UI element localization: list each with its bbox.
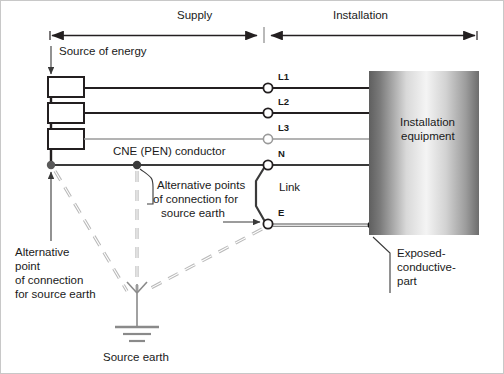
conductor-E <box>273 224 371 226</box>
link-conductor[interactable] <box>256 168 264 220</box>
callout-exposed-conductive-part <box>373 237 390 293</box>
terminal-L1[interactable] <box>263 83 272 92</box>
installation-equipment-box <box>369 71 479 235</box>
conductor-label-L3: L3 <box>278 122 289 133</box>
cne-conductor-label: CNE (PEN) conductor <box>113 145 225 159</box>
alternative-point-label-line3: of connection <box>15 274 83 288</box>
installation-equipment-label-line2: equipment <box>401 130 455 144</box>
source-windings <box>48 77 84 165</box>
terminal-N[interactable] <box>263 160 272 169</box>
exposed-conductive-part-label-line2: conductive- <box>397 261 456 275</box>
exposed-conductive-part-label-line1: Exposed- <box>397 247 446 261</box>
conductor-label-L2: L2 <box>278 96 289 107</box>
alternative-point-label-line4: for source earth <box>15 288 96 302</box>
terminal-L2[interactable] <box>263 108 272 117</box>
alternative-point-label-line2: point <box>15 260 40 274</box>
conductor-label-L1: L1 <box>278 71 289 82</box>
source-earth-label: Source earth <box>103 351 169 365</box>
alternative-point-label-line1: Alternative <box>15 246 69 260</box>
installation-equipment-label-line1: Installation <box>400 116 455 130</box>
callout-alternative-points <box>140 169 153 204</box>
exposed-conductive-part-label-line3: part <box>397 275 417 289</box>
earth-ground-icon <box>115 282 159 341</box>
zone-scale-arrows <box>50 27 477 43</box>
cne-connection-node <box>133 161 141 169</box>
terminal-L3[interactable] <box>263 134 272 143</box>
source-star-point-node <box>47 161 55 169</box>
zone-label-installation: Installation <box>333 9 388 23</box>
conductor-label-E: E <box>278 207 284 218</box>
conductor-label-N: N <box>278 148 285 159</box>
alternative-points-label-line3: source earth <box>161 207 225 221</box>
link-label: Link <box>279 181 300 195</box>
earthing-arrangement-diagram: Supply Installation Source of energy L1 … <box>0 0 504 374</box>
zone-label-supply: Supply <box>177 9 212 23</box>
alternative-points-label-line1: Alternative points <box>157 179 245 193</box>
terminal-E[interactable] <box>263 219 272 228</box>
source-of-energy-label: Source of energy <box>59 45 147 59</box>
alternative-points-label-line2: of connection for <box>153 193 238 207</box>
